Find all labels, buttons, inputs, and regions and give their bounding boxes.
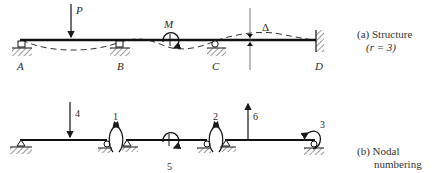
caption-a-title: (a) Structure [357, 28, 412, 41]
label-c: C [212, 60, 220, 72]
support-a [12, 41, 32, 56]
nodal-diagram: 4 1 5 2 6 3 [10, 102, 325, 172]
support-d-wall [316, 30, 324, 52]
caption-b-subtitle: numbering [374, 158, 422, 171]
caption-b-title: (b) Nodal [357, 145, 399, 158]
force-p-label: P [75, 4, 83, 16]
moment-m-label: M [163, 18, 174, 30]
node-number-2: 2 [213, 111, 218, 122]
node-number-1: 1 [113, 111, 118, 122]
structure-diagram: P M Δ A B C D [12, 4, 324, 72]
label-a: A [16, 60, 24, 72]
label-b: B [117, 60, 124, 72]
node-number-4: 4 [75, 108, 80, 119]
support-b [110, 41, 130, 56]
displacement-label: Δ [262, 21, 269, 33]
node-number-5: 5 [167, 161, 172, 172]
node-number-6: 6 [253, 111, 258, 122]
label-d: D [314, 60, 323, 72]
node-number-3: 3 [320, 119, 325, 130]
caption-a-subtitle: (r = 3) [366, 41, 396, 54]
